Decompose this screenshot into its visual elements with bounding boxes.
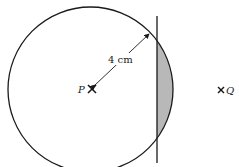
radius-label: 4 cm [108,54,133,65]
point-p-label: P [77,84,85,95]
point-p-marker [88,85,96,93]
point-q-marker [218,87,224,93]
shaded-segment [157,0,187,167]
geometry-diagram: 4 cm P Q [0,0,239,167]
point-q-label: Q [226,85,234,96]
